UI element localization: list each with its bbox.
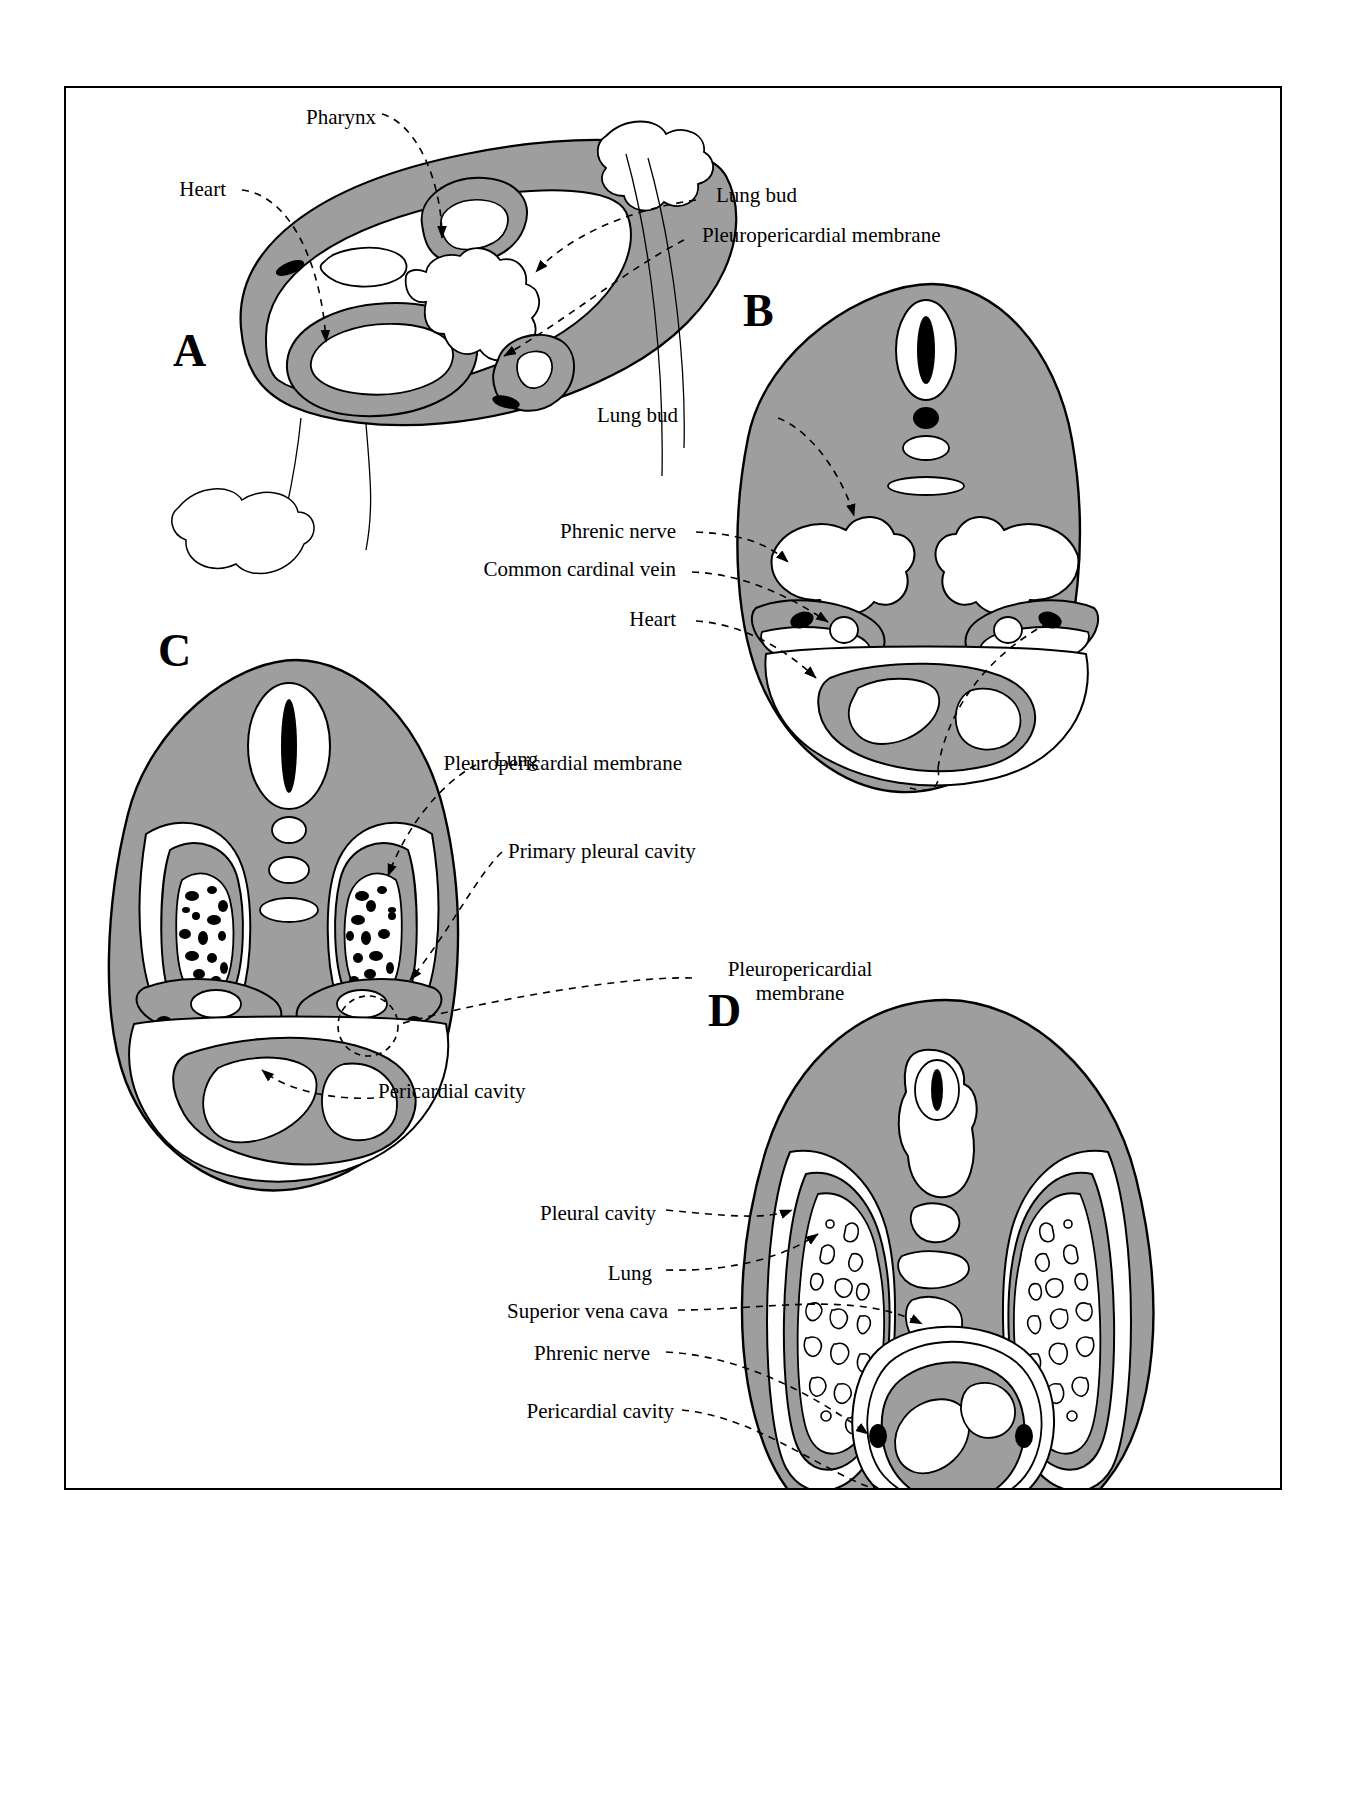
label-c-pericardial-cavity: Pericardial cavity xyxy=(378,1080,526,1104)
panel-d-illustration xyxy=(666,1000,1153,1488)
panel-letter-a: A xyxy=(173,328,206,374)
label-c-ppm-line2: membrane xyxy=(756,981,845,1005)
panel-letter-c: C xyxy=(158,628,191,674)
page-canvas: A B C D Pharynx Heart Lung bud Pleuroper… xyxy=(0,0,1348,1820)
label-c-ppm-line1: Pleuropericardial xyxy=(728,957,873,981)
panel-c-illustration xyxy=(109,660,692,1190)
label-d-superior-vena-cava: Superior vena cava xyxy=(426,1300,668,1324)
label-a-pharynx: Pharynx xyxy=(196,106,376,130)
panel-a-illustration xyxy=(172,114,736,574)
label-a-lung-bud: Lung bud xyxy=(716,184,797,208)
label-c-lung: Lung xyxy=(494,748,538,772)
label-d-phrenic-nerve: Phrenic nerve xyxy=(466,1342,650,1366)
label-a-pleuropericardial-membrane: Pleuropericardial membrane xyxy=(702,224,940,248)
label-a-heart: Heart xyxy=(76,178,226,202)
anatomy-illustration xyxy=(66,88,1280,1488)
panel-b-illustration xyxy=(692,284,1098,792)
label-b-common-cardinal-vein: Common cardinal vein xyxy=(402,558,676,582)
label-b-lung-bud: Lung bud xyxy=(518,404,678,428)
panel-letter-b: B xyxy=(743,288,774,334)
label-d-pericardial-cavity: Pericardial cavity xyxy=(466,1400,674,1424)
figure-frame: A B C D Pharynx Heart Lung bud Pleuroper… xyxy=(64,86,1282,1490)
label-b-heart: Heart xyxy=(506,608,676,632)
label-c-pleuropericardial-membrane: Pleuropericardial membrane xyxy=(700,958,900,1005)
label-d-lung: Lung xyxy=(486,1262,652,1286)
label-b-phrenic-nerve: Phrenic nerve xyxy=(436,520,676,544)
label-d-pleural-cavity: Pleural cavity xyxy=(466,1202,656,1226)
label-c-primary-pleural-cavity: Primary pleural cavity xyxy=(508,840,696,864)
